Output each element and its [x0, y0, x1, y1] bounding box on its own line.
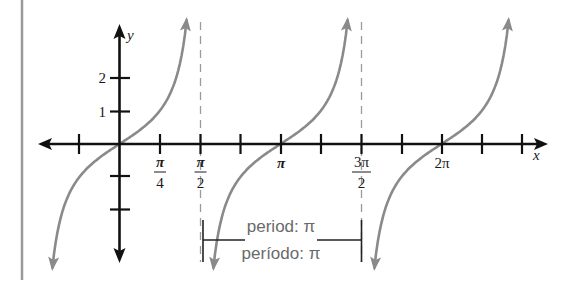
x-tick-label-3pi-over-2: 3π 2: [352, 154, 371, 191]
period-label-english: period: π: [247, 217, 315, 236]
x-tick-label-denominator: 2: [197, 175, 205, 191]
tangent-graph: y x 2 1 π 4 π 2 π 3π 2 2π period: π perí…: [0, 0, 566, 283]
y-tick-label-1: 1: [99, 104, 107, 120]
x-tick-label-denominator: 4: [156, 175, 164, 191]
y-tick-label-2: 2: [99, 70, 107, 86]
x-tick-label-pi: π: [277, 155, 286, 171]
x-tick-label-pi-over-4: π 4: [154, 154, 166, 191]
x-tick-label-2pi: 2π: [434, 155, 450, 171]
x-tick-label-numerator: π: [156, 154, 165, 170]
period-label-spanish: período: π: [242, 244, 321, 263]
x-tick-label-pi-over-2: π 2: [195, 154, 207, 191]
x-tick-label-numerator: π: [196, 154, 205, 170]
x-tick-label-denominator: 2: [358, 175, 366, 191]
x-axis-label: x: [532, 147, 540, 163]
y-axis-label: y: [125, 27, 134, 43]
x-tick-label-numerator: 3π: [354, 154, 370, 170]
